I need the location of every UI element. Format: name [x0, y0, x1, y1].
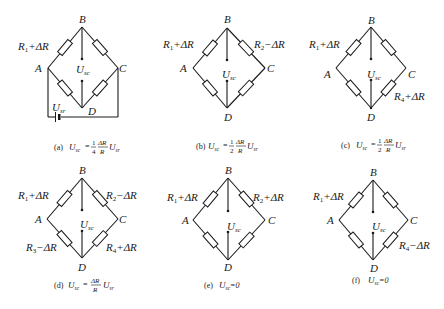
- svg-text:=: =: [83, 280, 88, 289]
- arm-ad-label: R3−ΔR: [25, 241, 57, 255]
- resistor-icon-ad: [203, 232, 218, 248]
- bridge-figure: B A C D R1+ΔR Usc Usr (a) Usc = 1 4 ΔR R…: [0, 0, 444, 309]
- terminal-dot: [370, 58, 373, 61]
- node-label-d: D: [366, 111, 375, 123]
- node-label-b: B: [224, 13, 231, 25]
- svg-text:Usc: Usc: [69, 142, 81, 153]
- resistor-icon-ad: [57, 231, 72, 247]
- output-label: Usc: [80, 218, 95, 232]
- svg-text:Usr: Usr: [103, 280, 115, 291]
- bridge-diagrams-canvas: B A C D R1+ΔR Usc Usr (a) Usc = 1 4 ΔR R…: [0, 0, 444, 309]
- arm-ab-label: R1+ΔR: [17, 189, 49, 203]
- svg-text:R: R: [237, 147, 243, 155]
- svg-text:2: 2: [378, 146, 382, 154]
- caption-d: (d) Usc = ΔR R Usr: [54, 277, 115, 294]
- resistor-icon-ab: [203, 191, 218, 207]
- svg-text:Usc=0: Usc=0: [368, 275, 389, 286]
- svg-text:Usc: Usc: [68, 280, 80, 291]
- resistor-icon-dc: [383, 232, 398, 248]
- arm-bc-label: R2−ΔR: [253, 38, 285, 52]
- svg-text:1: 1: [378, 137, 382, 145]
- node-label-c: C: [119, 62, 127, 74]
- resistor-icon-bc: [383, 192, 398, 208]
- node-label-d: D: [87, 105, 96, 117]
- node-label-c: C: [408, 68, 416, 80]
- arm-dc-label: R4−ΔR: [398, 239, 430, 253]
- output-label: Usc: [227, 220, 242, 234]
- svg-text:(f): (f): [352, 276, 360, 285]
- svg-text:1: 1: [92, 139, 96, 147]
- resistor-icon-dc: [92, 80, 107, 96]
- arm-ab-label: R1+ΔR: [166, 191, 198, 205]
- resistor-icon-ad: [349, 232, 364, 248]
- svg-text:R: R: [385, 146, 391, 154]
- output-label: Usc: [76, 63, 91, 77]
- arm-bc-label: R2+ΔR: [252, 191, 284, 205]
- resistor-icon-ab: [58, 39, 73, 55]
- terminal-dot: [226, 80, 229, 83]
- svg-text:(c): (c): [341, 141, 350, 150]
- svg-text:=: =: [223, 141, 228, 150]
- svg-text:R: R: [99, 148, 105, 156]
- resistor-icon-ab: [203, 40, 218, 56]
- node-label-d: D: [223, 111, 232, 123]
- svg-text:1: 1: [230, 138, 234, 146]
- node-label-a: A: [34, 213, 42, 225]
- caption-c: (c) Usc = 1 2 ΔR R Usr: [341, 137, 407, 154]
- caption-f: (f) Usc=0: [352, 275, 389, 286]
- svg-text:(a): (a): [54, 143, 63, 152]
- output-label: Usc: [222, 68, 237, 82]
- terminal-dot: [372, 232, 375, 235]
- node-dot-d: [370, 107, 372, 109]
- node-label-b: B: [370, 166, 377, 178]
- terminal-dot: [81, 80, 84, 83]
- svg-text:ΔR: ΔR: [97, 139, 107, 147]
- arm-ab-label: R1+ΔR: [308, 38, 340, 52]
- terminal-dot: [372, 211, 375, 214]
- supply-label: Usr: [52, 101, 66, 115]
- resistor-icon-ad: [58, 80, 73, 96]
- panel-b: B A C D R1+ΔR R2−ΔR Usc (b) Usc = 1 2 ΔR…: [162, 13, 285, 155]
- node-label-a: A: [34, 62, 42, 74]
- resistor-icon-ad: [346, 80, 361, 96]
- svg-text:(b): (b): [196, 142, 206, 151]
- panel-c: B A C D R1+ΔR R4+ΔR Usc (c) Usc = 1 2 ΔR…: [308, 14, 425, 154]
- resistor-icon-bc: [239, 191, 254, 207]
- svg-text:2: 2: [230, 147, 234, 155]
- arm-ab-label: R1+ΔR: [162, 38, 194, 52]
- node-label-c: C: [268, 214, 276, 226]
- svg-text:ΔR: ΔR: [235, 138, 245, 146]
- svg-text:Usc: Usc: [208, 141, 220, 152]
- svg-text:ΔR: ΔR: [383, 137, 393, 145]
- resistor-icon-bc: [238, 40, 253, 56]
- svg-text:ΔR: ΔR: [90, 277, 100, 285]
- resistor-icon-ad: [203, 80, 218, 96]
- caption-b: (b) Usc = 1 2 ΔR R Usr: [196, 138, 259, 155]
- panel-a: B A C D R1+ΔR Usc Usr (a) Usc = 1 4 ΔR R…: [17, 13, 127, 156]
- arm-dc-label: R4+ΔR: [105, 241, 137, 255]
- node-label-b: B: [79, 164, 86, 176]
- svg-text:Usc=0: Usc=0: [219, 280, 240, 291]
- svg-text:=: =: [85, 142, 90, 151]
- terminal-dot: [226, 59, 229, 62]
- resistor-icon-bc: [381, 39, 396, 55]
- svg-text:R: R: [92, 286, 98, 294]
- svg-text:=: =: [371, 140, 376, 149]
- node-label-b: B: [368, 14, 375, 26]
- node-label-d: D: [77, 261, 86, 273]
- resistor-icon-dc: [238, 80, 253, 96]
- node-label-b: B: [225, 164, 232, 176]
- panel-d: B A C D R1+ΔR R2−ΔR R3−ΔR R4+ΔR Usc (d) …: [17, 164, 137, 294]
- caption-e: (e) Usc=0: [204, 280, 240, 291]
- node-label-b: B: [79, 13, 86, 25]
- terminal-dot: [81, 58, 84, 61]
- arm-dc-label: R4+ΔR: [393, 90, 425, 104]
- terminal-dot: [81, 230, 84, 233]
- svg-text:Usr: Usr: [247, 141, 259, 152]
- resistor-icon-ab: [349, 192, 364, 208]
- resistor-icon-ab: [346, 39, 361, 55]
- node-label-c: C: [267, 62, 275, 74]
- svg-text:(e): (e): [204, 281, 213, 290]
- svg-text:Usr: Usr: [109, 142, 121, 153]
- resistor-icon-bc: [92, 40, 107, 56]
